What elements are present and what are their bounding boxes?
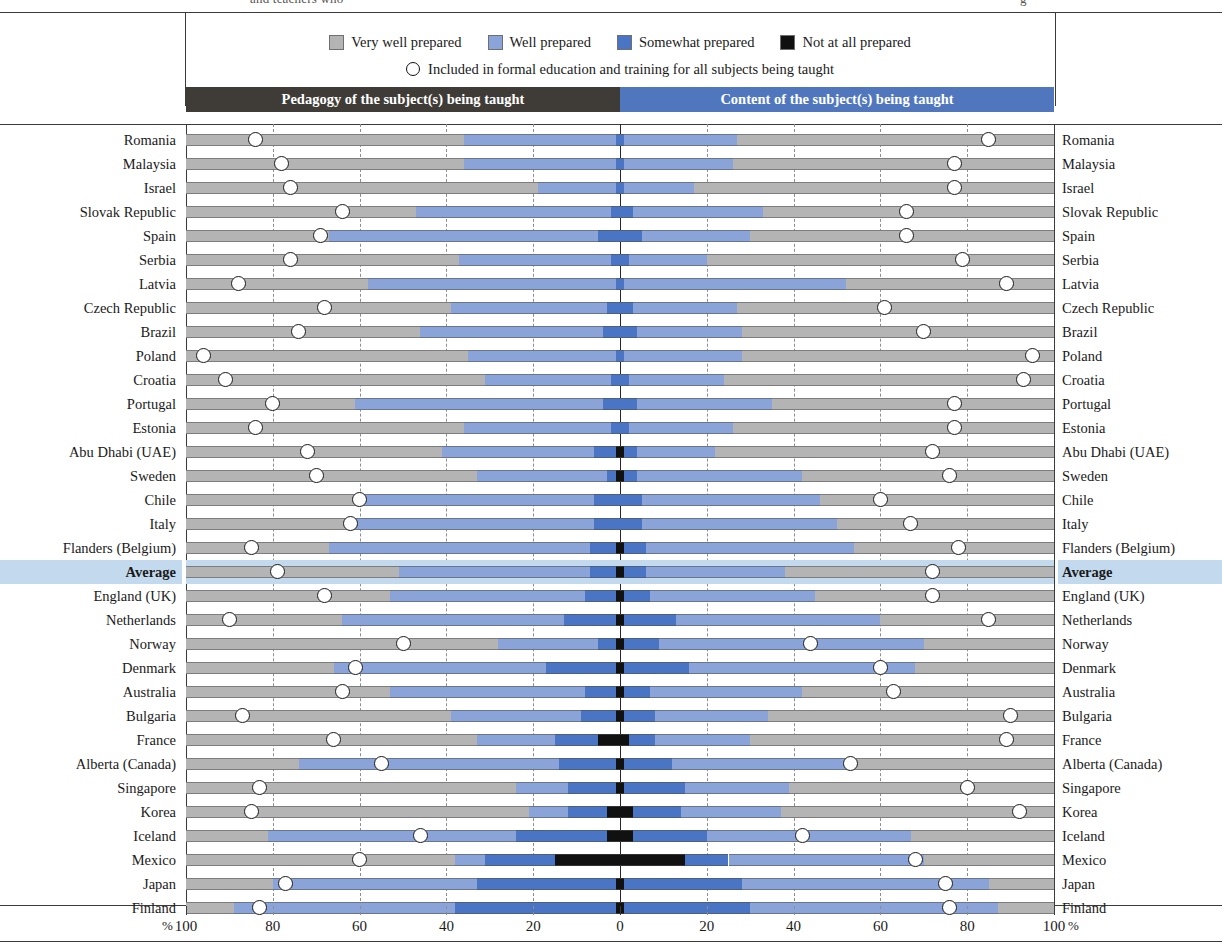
country-label-right: England (UK) [1062,584,1145,608]
inclusion-marker-left [274,156,289,171]
segment-very-well-prepared [820,494,1054,506]
segment-somewhat-prepared [624,590,650,602]
segment-well-prepared [498,638,598,650]
axis-tick [707,906,708,915]
segment-very-well-prepared [733,422,1054,434]
segment-well-prepared [624,278,845,290]
segment-somewhat-prepared [624,662,689,674]
country-label-right: Flanders (Belgium) [1062,536,1175,560]
inclusion-marker-left [244,540,259,555]
segment-somewhat-prepared [620,302,633,314]
segment-somewhat-prepared [611,422,620,434]
segment-well-prepared [624,350,741,362]
diverging-bar [186,710,1054,722]
inclusion-marker-right [873,492,888,507]
segment-very-well-prepared [186,134,464,146]
axis-tick [794,906,795,915]
country-label-right: Latvia [1062,272,1099,296]
segment-very-well-prepared [186,638,498,650]
segment-well-prepared [685,782,789,794]
country-label-left: Netherlands [106,608,176,632]
diverging-bar [186,182,1054,194]
diverging-bar [186,302,1054,314]
inclusion-marker-left [196,348,211,363]
segment-well-prepared [455,854,485,866]
chart-row [186,824,1054,848]
panel-header-content: Content of the subject(s) being taught [620,87,1054,112]
country-label-right: Iceland [1062,824,1105,848]
diverging-bar [186,566,1054,578]
inclusion-marker-left [244,804,259,819]
diverging-bar [186,758,1054,770]
inclusion-marker-left [374,756,389,771]
diverging-bar [186,638,1054,650]
inclusion-marker-right [886,684,901,699]
inclusion-marker-right [1012,804,1027,819]
segment-somewhat-prepared [568,806,607,818]
segment-well-prepared [477,734,555,746]
segment-very-well-prepared [186,494,360,506]
chart-row [186,848,1054,872]
inclusion-marker-left [231,276,246,291]
segment-well-prepared [342,614,563,626]
inclusion-marker-right [1025,348,1040,363]
inclusion-marker-right [843,756,858,771]
segment-very-well-prepared [186,158,464,170]
diverging-bar [186,134,1054,146]
country-label-left: Estonia [133,416,177,440]
segment-well-prepared [360,494,594,506]
segment-somewhat-prepared [620,230,642,242]
segment-somewhat-prepared [624,710,654,722]
segment-well-prepared [637,470,802,482]
segment-very-well-prepared [724,374,1054,386]
chart-rows [186,124,1054,906]
diverging-bar [186,158,1054,170]
gridline [1054,124,1055,906]
segment-well-prepared [464,134,616,146]
country-label-left: Czech Republic [84,296,176,320]
segment-somewhat-prepared [611,374,620,386]
segment-somewhat-prepared [620,518,642,530]
segment-somewhat-prepared [598,638,615,650]
country-label-left: Sweden [130,464,176,488]
diverging-bar [186,278,1054,290]
inclusion-marker-left [218,372,233,387]
segment-very-well-prepared [715,446,1054,458]
segment-somewhat-prepared [603,398,620,410]
segment-very-well-prepared [742,326,1054,338]
country-label-right: Romania [1062,128,1114,152]
cut-caption: and teachers who g [0,0,1222,12]
segment-well-prepared [516,782,568,794]
diverging-bar [186,254,1054,266]
segment-not-at-all-prepared [620,830,633,842]
segment-somewhat-prepared [620,422,629,434]
country-label-right: Czech Republic [1062,296,1154,320]
segment-very-well-prepared [186,566,399,578]
diverging-bar [186,782,1054,794]
segment-well-prepared [273,878,477,890]
chart-row [186,512,1054,536]
segment-well-prepared [629,422,733,434]
segment-well-prepared [624,158,733,170]
inclusion-marker-left [309,468,324,483]
segment-somewhat-prepared [624,446,637,458]
country-label-right: France [1062,728,1101,752]
segment-well-prepared [642,494,820,506]
inclusion-marker-right [899,228,914,243]
segment-very-well-prepared [837,518,1054,530]
country-label-left: Croatia [133,368,176,392]
legend-label: Not at all prepared [802,35,910,50]
chart-row [186,728,1054,752]
segment-somewhat-prepared [594,494,620,506]
legend-item-very-well-prepared: Very well prepared [329,35,461,50]
country-label-right: Slovak Republic [1062,200,1158,224]
x-axis: 10080604020020406080100%% [186,906,1054,942]
country-label-right: Portugal [1062,392,1111,416]
axis-tick [967,906,968,915]
segment-very-well-prepared [186,830,268,842]
inclusion-marker-right [960,780,975,795]
inclusion-marker-left [352,492,367,507]
segment-not-at-all-prepared [607,830,620,842]
segment-somewhat-prepared [624,566,646,578]
chart-row [186,416,1054,440]
